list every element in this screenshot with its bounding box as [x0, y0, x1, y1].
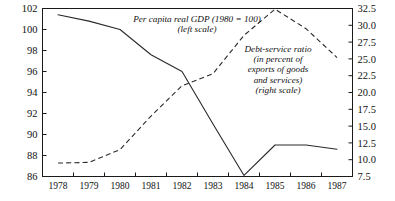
right-tick-label: 7.5 — [358, 171, 371, 182]
left-tick-label: 100 — [22, 24, 38, 35]
right-tick-label: 30.0 — [358, 20, 376, 31]
x-tick-label: 1981 — [142, 181, 161, 191]
left-tick-label: 90 — [27, 129, 38, 140]
left-tick-label: 96 — [27, 66, 38, 77]
left-tick-label: 94 — [27, 87, 38, 98]
left-tick-label: 98 — [27, 45, 38, 56]
debt-annotation: (in percent of — [253, 54, 304, 64]
left-tick-label: 88 — [27, 150, 38, 161]
right-tick-label: 27.5 — [358, 37, 376, 48]
right-axis-ticks — [349, 9, 353, 177]
x-tick-label: 1986 — [297, 181, 316, 191]
gdp-annotation: Per capita real GDP (1980 = 100) — [132, 14, 261, 24]
debt-annotation: Debt-service ratio — [243, 44, 312, 54]
chart-figure: 86889092949698100102 7.510.012.515.017.5… — [0, 0, 395, 201]
x-tick-label: 1985 — [266, 181, 285, 191]
right-tick-label: 15.0 — [358, 121, 376, 132]
right-tick-label: 20.0 — [358, 87, 376, 98]
left-tick-label: 102 — [22, 3, 38, 14]
per-capita-gdp-line — [58, 15, 337, 176]
right-tick-label: 17.5 — [358, 104, 376, 115]
x-tick-label: 1979 — [80, 181, 99, 191]
dual-axis-line-chart: 86889092949698100102 7.510.012.515.017.5… — [0, 0, 395, 201]
right-tick-label: 10.0 — [358, 154, 376, 165]
left-tick-label: 86 — [27, 171, 38, 182]
right-tick-label: 12.5 — [358, 138, 376, 149]
right-tick-label: 25.0 — [358, 54, 376, 65]
right-tick-label: 32.5 — [358, 3, 376, 14]
right-tick-label: 22.5 — [358, 70, 376, 81]
left-axis-ticks — [43, 9, 47, 177]
left-axis-tick-labels: 86889092949698100102 — [22, 3, 39, 182]
x-tick-label: 1987 — [328, 181, 347, 191]
gdp-annotation: (left scale) — [177, 24, 216, 34]
debt-annotation: and services) — [254, 75, 303, 85]
debt-annotation: exports of goods — [248, 64, 309, 74]
left-tick-label: 92 — [27, 108, 38, 119]
x-tick-label: 1978 — [49, 181, 68, 191]
x-tick-label: 1980 — [111, 181, 130, 191]
debt-annotation: (right scale) — [255, 85, 300, 95]
x-axis-ticks — [74, 173, 322, 177]
x-tick-label: 1984 — [235, 181, 254, 191]
x-axis-tick-labels: 1978197919801981198219831984198519861987 — [49, 181, 347, 191]
chart-annotations: Per capita real GDP (1980 = 100)(left sc… — [132, 14, 312, 95]
right-axis-tick-labels: 7.510.012.515.017.520.022.525.027.530.03… — [358, 3, 376, 182]
x-tick-label: 1983 — [204, 181, 223, 191]
x-tick-label: 1982 — [173, 181, 192, 191]
